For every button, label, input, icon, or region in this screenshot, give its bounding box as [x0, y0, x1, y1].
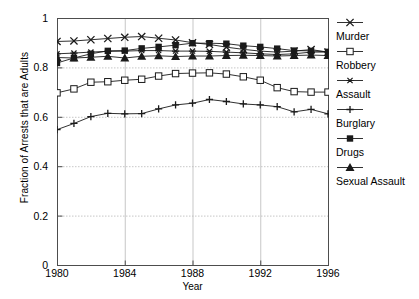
plot-area	[57, 18, 328, 265]
legend-marker-plus-icon	[336, 103, 419, 116]
y-tick-0.2: 0.2	[0, 210, 48, 222]
legend-item-murder: Murder	[336, 16, 419, 43]
legend-item-sexual-assault: Sexual Assault	[336, 161, 419, 188]
x-tick-1992: 1992	[230, 267, 290, 279]
x-tick-1984: 1984	[95, 267, 155, 279]
chart-figure: Fraction of Arrests that are Adults 00.2…	[0, 0, 419, 299]
y-axis-label: Fraction of Arrests that are Adults	[19, 28, 30, 228]
x-tick-1980: 1980	[27, 267, 87, 279]
y-tick-1: 1	[0, 12, 48, 24]
legend-label: Assault	[336, 87, 419, 101]
legend-label: Burglary	[336, 116, 419, 130]
legend-item-drugs: Drugs	[336, 132, 419, 159]
legend-item-assault: Assault	[336, 74, 419, 101]
legend-marker-filled-triangle-icon	[336, 161, 419, 174]
y-tick-0.4: 0.4	[0, 160, 48, 172]
legend-label: Murder	[336, 29, 419, 43]
legend-marker-filled-square-icon	[336, 132, 419, 145]
legend-label: Drugs	[336, 145, 419, 159]
y-tick-0.6: 0.6	[0, 111, 48, 123]
legend-marker-asterisk-icon	[336, 74, 419, 87]
legend-item-burglary: Burglary	[336, 103, 419, 130]
x-axis-label: Year	[57, 281, 328, 292]
legend-marker-open-square-icon	[336, 45, 419, 58]
legend-label: Robbery	[336, 58, 419, 72]
legend-marker-x-icon	[336, 16, 419, 29]
legend-label: Sexual Assault	[336, 174, 419, 188]
x-tick-1996: 1996	[298, 267, 358, 279]
legend-item-robbery: Robbery	[336, 45, 419, 72]
y-tick-0.8: 0.8	[0, 61, 48, 73]
x-tick-1988: 1988	[163, 267, 223, 279]
chart-legend: MurderRobberyAssaultBurglaryDrugsSexual …	[336, 16, 419, 190]
